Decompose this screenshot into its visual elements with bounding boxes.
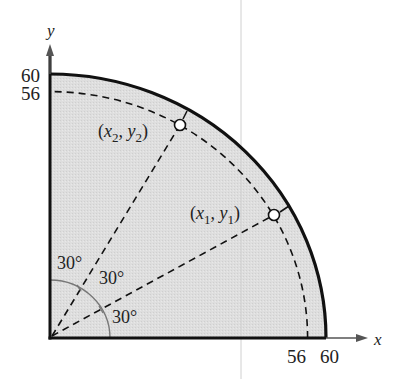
angle-label-bottom: 30°: [112, 307, 137, 327]
x-tick-56: 56: [287, 346, 306, 367]
sector-diagram: y x 60 56 56 60 30° 30° 30° (x2, y2) (x1…: [0, 0, 408, 379]
y-axis-label: y: [45, 21, 55, 40]
x-axis-arrow-icon: [356, 334, 368, 342]
angle-label-middle: 30°: [99, 268, 124, 288]
x-axis-label: x: [373, 330, 382, 349]
angle-label-top: 30°: [57, 253, 82, 273]
y-axis-arrow-icon: [46, 44, 54, 56]
point-2: [175, 120, 186, 131]
x-tick-60: 60: [320, 346, 339, 367]
point-1: [269, 210, 280, 221]
shaded-sector: [50, 74, 326, 338]
y-tick-56: 56: [21, 83, 40, 104]
